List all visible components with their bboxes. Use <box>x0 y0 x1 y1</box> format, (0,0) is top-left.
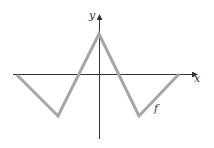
graph-canvas <box>0 0 214 148</box>
curve-label-f: f <box>154 103 158 114</box>
x-axis-label: x <box>194 73 200 84</box>
y-axis-label: y <box>89 10 95 21</box>
